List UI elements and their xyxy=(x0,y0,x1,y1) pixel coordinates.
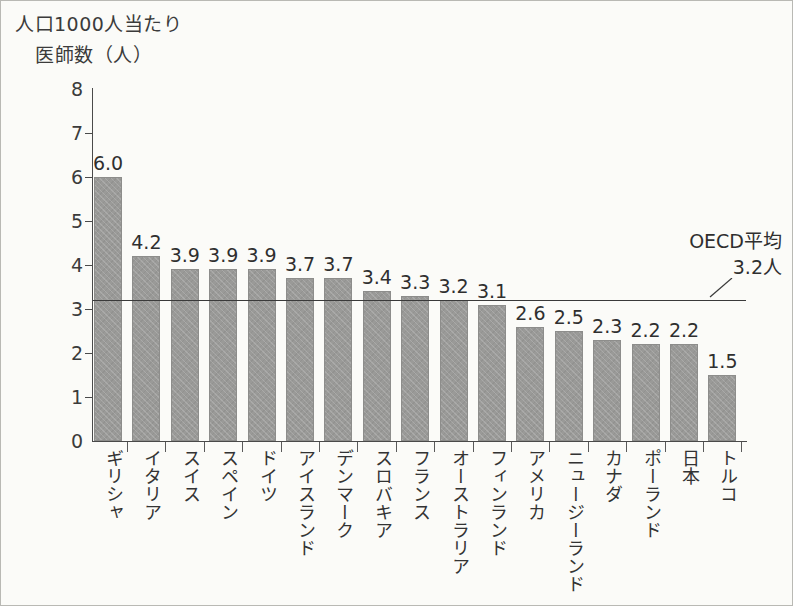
bar-value-label: 3.9 xyxy=(201,244,245,266)
y-axis-title-line1: 人口1000人当たり xyxy=(15,9,182,36)
bar xyxy=(94,177,122,441)
x-axis-tick-mark xyxy=(434,442,435,452)
y-axis-tick-label: 0 xyxy=(57,430,83,452)
chart-figure: 人口1000人当たり 医師数（人） 012345678 6.04.23.93.9… xyxy=(0,0,793,606)
y-axis-tick-labels: 012345678 xyxy=(49,1,83,606)
bar xyxy=(516,327,544,441)
category-label: 日本 xyxy=(672,449,698,485)
bar-value-label: 6.0 xyxy=(86,152,130,174)
y-axis-tick-label: 1 xyxy=(57,386,83,408)
x-axis-tick-mark xyxy=(665,442,666,452)
x-axis-tick-mark xyxy=(588,442,589,452)
x-axis-tick-mark xyxy=(357,442,358,452)
bar-value-label: 2.6 xyxy=(508,302,552,324)
category-label: デンマーク xyxy=(326,449,352,539)
x-axis-tick-mark xyxy=(473,442,474,452)
bar xyxy=(324,278,352,441)
bar-value-label: 3.3 xyxy=(393,271,437,293)
x-axis-tick-mark xyxy=(703,442,704,452)
y-axis-tick-mark xyxy=(85,221,93,222)
category-label: スペイン xyxy=(211,449,237,521)
x-axis-tick-mark xyxy=(281,442,282,452)
category-label: ギリシャ xyxy=(96,449,122,521)
category-label: ポーランド xyxy=(634,449,660,539)
x-axis-tick-mark xyxy=(549,442,550,452)
bar xyxy=(248,269,276,441)
x-axis-tick-mark xyxy=(626,442,627,452)
category-label: イタリア xyxy=(134,449,160,521)
x-axis-tick-mark xyxy=(319,442,320,452)
category-label: ニュージーランド xyxy=(557,449,583,593)
x-axis-line xyxy=(92,441,747,442)
y-axis-tick-mark xyxy=(85,265,93,266)
bar-value-label: 3.1 xyxy=(470,280,514,302)
annotation-leader-line xyxy=(709,278,733,298)
y-axis-tick-mark xyxy=(85,397,93,398)
x-axis-tick-mark xyxy=(741,442,742,452)
y-axis-tick-label: 8 xyxy=(57,78,83,100)
bar xyxy=(440,300,468,441)
oecd-average-value: 3.2人 xyxy=(689,255,782,281)
bar-value-label: 3.9 xyxy=(240,244,284,266)
oecd-average-annotation: OECD平均 3.2人 xyxy=(689,229,782,280)
y-axis-tick-label: 5 xyxy=(57,210,83,232)
category-label: ドイツ xyxy=(250,449,276,503)
bar-value-label: 3.7 xyxy=(278,253,322,275)
bar-value-label: 1.5 xyxy=(700,350,744,372)
bar-value-label: 3.9 xyxy=(163,244,207,266)
bar-value-label: 2.5 xyxy=(547,306,591,328)
bar xyxy=(401,296,429,441)
x-axis-tick-mark xyxy=(396,442,397,452)
bar-value-label: 2.3 xyxy=(585,315,629,337)
x-axis-tick-mark xyxy=(204,442,205,452)
category-label: カナダ xyxy=(595,449,621,503)
x-axis-tick-mark xyxy=(511,442,512,452)
bar-value-label: 3.4 xyxy=(355,266,399,288)
x-axis-tick-mark xyxy=(127,442,128,452)
bar xyxy=(209,269,237,441)
x-axis-tick-mark xyxy=(165,442,166,452)
bar-value-label: 4.2 xyxy=(124,231,168,253)
oecd-average-line xyxy=(93,300,746,301)
bar xyxy=(555,331,583,441)
category-label: アメリカ xyxy=(518,449,544,521)
category-label: フランス xyxy=(403,449,429,521)
category-label: スイス xyxy=(173,449,199,503)
category-label: トルコ xyxy=(710,449,736,503)
y-axis-tick-label: 4 xyxy=(57,254,83,276)
bar xyxy=(132,256,160,441)
bar xyxy=(171,269,199,441)
bar xyxy=(593,340,621,441)
category-label: フィンランド xyxy=(480,449,506,557)
category-label: スロバキア xyxy=(365,449,391,539)
bar-value-label: 3.2 xyxy=(432,275,476,297)
y-axis-tick-label: 2 xyxy=(57,342,83,364)
bar xyxy=(632,344,660,441)
category-label: オーストラリア xyxy=(442,449,468,575)
oecd-average-label: OECD平均 xyxy=(689,229,782,255)
y-axis-tick-label: 7 xyxy=(57,122,83,144)
y-axis-tick-label: 6 xyxy=(57,166,83,188)
bar-value-label: 2.2 xyxy=(624,319,668,341)
y-axis-tick-mark xyxy=(85,133,93,134)
bar xyxy=(286,278,314,441)
bar xyxy=(708,375,736,441)
bar xyxy=(670,344,698,441)
bar xyxy=(363,291,391,441)
x-axis-tick-mark xyxy=(242,442,243,452)
y-axis-tick-label: 3 xyxy=(57,298,83,320)
category-label: アイスランド xyxy=(288,449,314,557)
bar-value-label: 2.2 xyxy=(662,319,706,341)
y-axis-tick-mark xyxy=(85,309,93,310)
y-axis-tick-mark xyxy=(85,353,93,354)
y-axis-tick-mark xyxy=(85,177,93,178)
bar xyxy=(478,305,506,441)
bar-value-label: 3.7 xyxy=(316,253,360,275)
